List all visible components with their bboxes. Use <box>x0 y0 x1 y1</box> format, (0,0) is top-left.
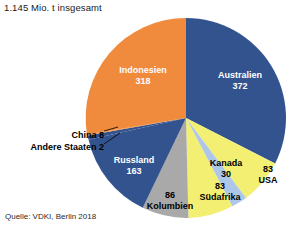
slice-label-andere-staaten-name: Andere Staaten 2 <box>2 142 104 153</box>
chart-container: 1.145 Mio. t insgesamt Indonesien 318 Au… <box>0 0 298 229</box>
slice-label-china: China 8 <box>24 130 104 141</box>
slice-label-russland: Russland 163 <box>96 155 172 176</box>
slice-label-china-name: China 8 <box>24 130 104 141</box>
slice-label-australien: Australien 372 <box>198 70 282 91</box>
slice-label-russland-value: 163 <box>96 166 172 177</box>
slice-label-indonesien-name: Indonesien <box>100 65 186 76</box>
slice-label-australien-name: Australien <box>198 70 282 81</box>
slice-label-australien-value: 372 <box>198 81 282 92</box>
slice-label-usa-value: 83 <box>246 164 290 175</box>
slice-label-kolumbien: 86 Kolumbien <box>137 190 203 211</box>
slice-label-kolumbien-name: Kolumbien <box>137 201 203 212</box>
slice-label-russland-name: Russland <box>96 155 172 166</box>
slice-label-kolumbien-value: 86 <box>137 190 203 201</box>
slice-label-indonesien: Indonesien 318 <box>100 65 186 86</box>
source-note: Quelle: VDKI, Berlin 2018 <box>5 212 96 221</box>
slice-label-indonesien-value: 318 <box>100 76 186 87</box>
slice-label-andere-staaten: Andere Staaten 2 <box>2 142 104 153</box>
